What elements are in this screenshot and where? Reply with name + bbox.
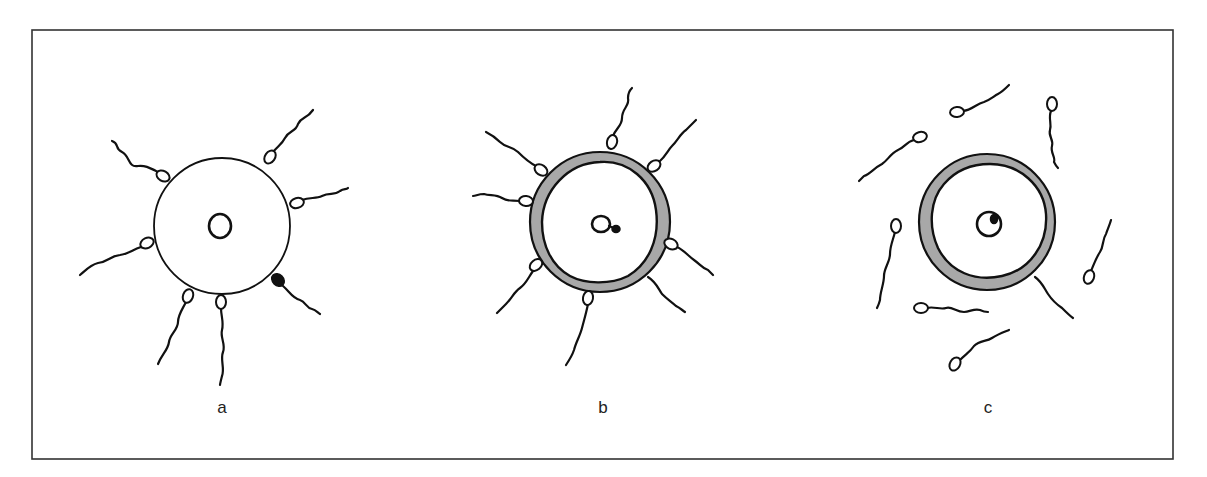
- panel-label-c: c: [984, 398, 993, 417]
- fertilization-diagram: a b: [0, 0, 1207, 477]
- entered-sperm-head-b: [612, 226, 620, 233]
- panel-c: c: [859, 85, 1111, 417]
- egg-nucleus-c: [977, 212, 1001, 236]
- sperm-pronucleus-c: [991, 215, 998, 224]
- panel-label-a: a: [217, 398, 227, 417]
- panel-a: a: [80, 110, 348, 417]
- panel-b: b: [473, 88, 713, 417]
- egg-nucleus-a: [209, 214, 231, 238]
- egg-nucleus-b: [592, 216, 610, 232]
- panel-label-b: b: [598, 398, 607, 417]
